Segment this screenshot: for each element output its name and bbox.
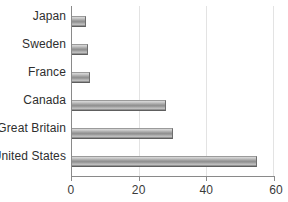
category-label-great-britain: Great Britain	[0, 121, 66, 135]
category-label-sweden: Sweden	[22, 37, 66, 51]
tick-60	[274, 176, 275, 181]
bar-japan	[71, 16, 86, 27]
category-label-france: France	[28, 65, 66, 79]
gridline-40	[206, 6, 207, 176]
gridline-20	[139, 6, 140, 176]
x-tick-label-40: 40	[199, 183, 213, 197]
bar-great-britain	[71, 128, 173, 139]
category-label-united-states: United States	[0, 149, 66, 163]
bar-chart: 0 20 40 60 Japan Sweden France Canada Gr…	[0, 0, 288, 202]
plot-area	[71, 6, 274, 176]
category-label-canada: Canada	[23, 93, 66, 107]
y-axis-line	[71, 6, 72, 176]
x-tick-label-20: 20	[132, 183, 146, 197]
x-tick-label-60: 60	[269, 183, 283, 197]
tick-20	[139, 176, 140, 181]
category-label-japan: Japan	[33, 9, 66, 23]
bar-united-states	[71, 156, 257, 167]
x-axis-line	[71, 176, 275, 177]
gridline-60	[273, 6, 274, 176]
tick-40	[206, 176, 207, 181]
x-tick-label-0: 0	[68, 183, 75, 197]
bar-france	[71, 72, 90, 83]
bar-sweden	[71, 44, 88, 55]
bar-canada	[71, 100, 166, 111]
tick-0	[71, 176, 72, 181]
